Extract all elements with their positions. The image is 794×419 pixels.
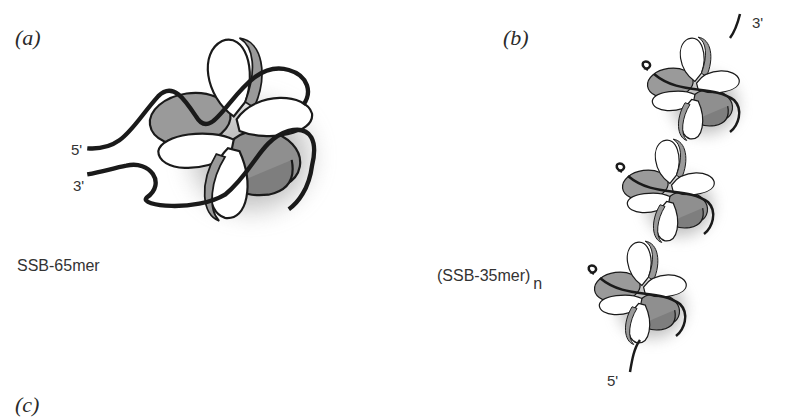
panel-label-b: (b) [503, 27, 529, 49]
caption-subscript-n: n [533, 275, 542, 292]
label-5prime-b: 5' [607, 373, 618, 388]
caption-ssb-35mer: (SSB-35mer)n [437, 268, 542, 292]
figure-artwork [0, 0, 794, 419]
label-5prime-a: 5' [71, 142, 82, 157]
caption-ssb-35mer-text: (SSB-35mer) [437, 267, 530, 284]
label-3prime-b: 3' [752, 15, 763, 30]
panel-label-c: (c) [15, 394, 39, 416]
panel-label-a: (a) [15, 27, 41, 49]
ssb-35mer-chain [589, 14, 740, 372]
label-3prime-a: 3' [73, 178, 84, 193]
caption-ssb-65mer: SSB-65mer [17, 258, 100, 274]
ssb-65mer-tetramer [87, 38, 314, 221]
